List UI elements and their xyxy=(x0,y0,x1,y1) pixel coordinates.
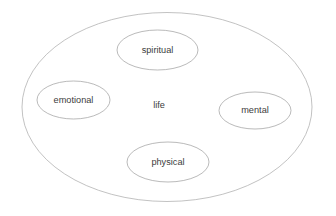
node-label-mental: mental xyxy=(241,105,269,115)
node-label-physical: physical xyxy=(151,157,184,167)
node-emotional[interactable]: emotional xyxy=(37,81,110,119)
node-label-emotional: emotional xyxy=(54,95,94,105)
node-physical[interactable]: physical xyxy=(127,142,209,182)
life-diagram: life spiritual emotional mental physical xyxy=(0,0,336,216)
node-spiritual[interactable]: spiritual xyxy=(117,30,198,70)
node-mental[interactable]: mental xyxy=(219,92,291,129)
container-label-life: life xyxy=(153,100,165,110)
node-label-spiritual: spiritual xyxy=(142,45,174,55)
diagram-canvas: life spiritual emotional mental physical xyxy=(0,0,336,216)
